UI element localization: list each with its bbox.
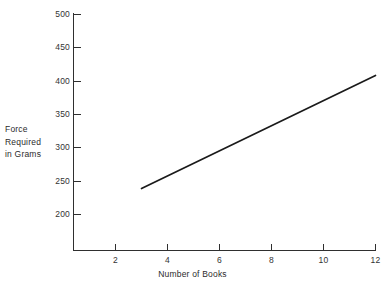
x-tick-label-6: 6 — [207, 256, 232, 265]
y-tick-label-250: 250 — [50, 177, 70, 186]
x-tick-label-4: 4 — [155, 256, 180, 265]
y-tick-label-200: 200 — [50, 210, 70, 219]
y-axis-title-line-2: Required — [5, 136, 41, 149]
data-series-force-required — [142, 76, 376, 189]
x-tick-marks — [116, 244, 376, 251]
y-axis-title: Force Required in Grams — [5, 123, 41, 161]
chart-figure: 500 450 400 350 300 250 200 2 4 6 8 10 1… — [0, 0, 385, 289]
y-tick-marks — [74, 15, 81, 215]
x-tick-label-10: 10 — [311, 256, 336, 265]
y-tick-label-300: 300 — [50, 143, 70, 152]
y-axis-title-line-3: in Grams — [5, 148, 41, 161]
y-tick-label-350: 350 — [50, 110, 70, 119]
x-tick-label-12: 12 — [363, 256, 385, 265]
x-tick-label-8: 8 — [259, 256, 284, 265]
x-tick-label-2: 2 — [103, 256, 128, 265]
y-axis-title-line-1: Force — [5, 123, 41, 136]
y-tick-label-450: 450 — [50, 43, 70, 52]
y-tick-label-400: 400 — [50, 77, 70, 86]
y-tick-label-500: 500 — [50, 10, 70, 19]
x-axis-title: Number of Books — [0, 268, 385, 281]
